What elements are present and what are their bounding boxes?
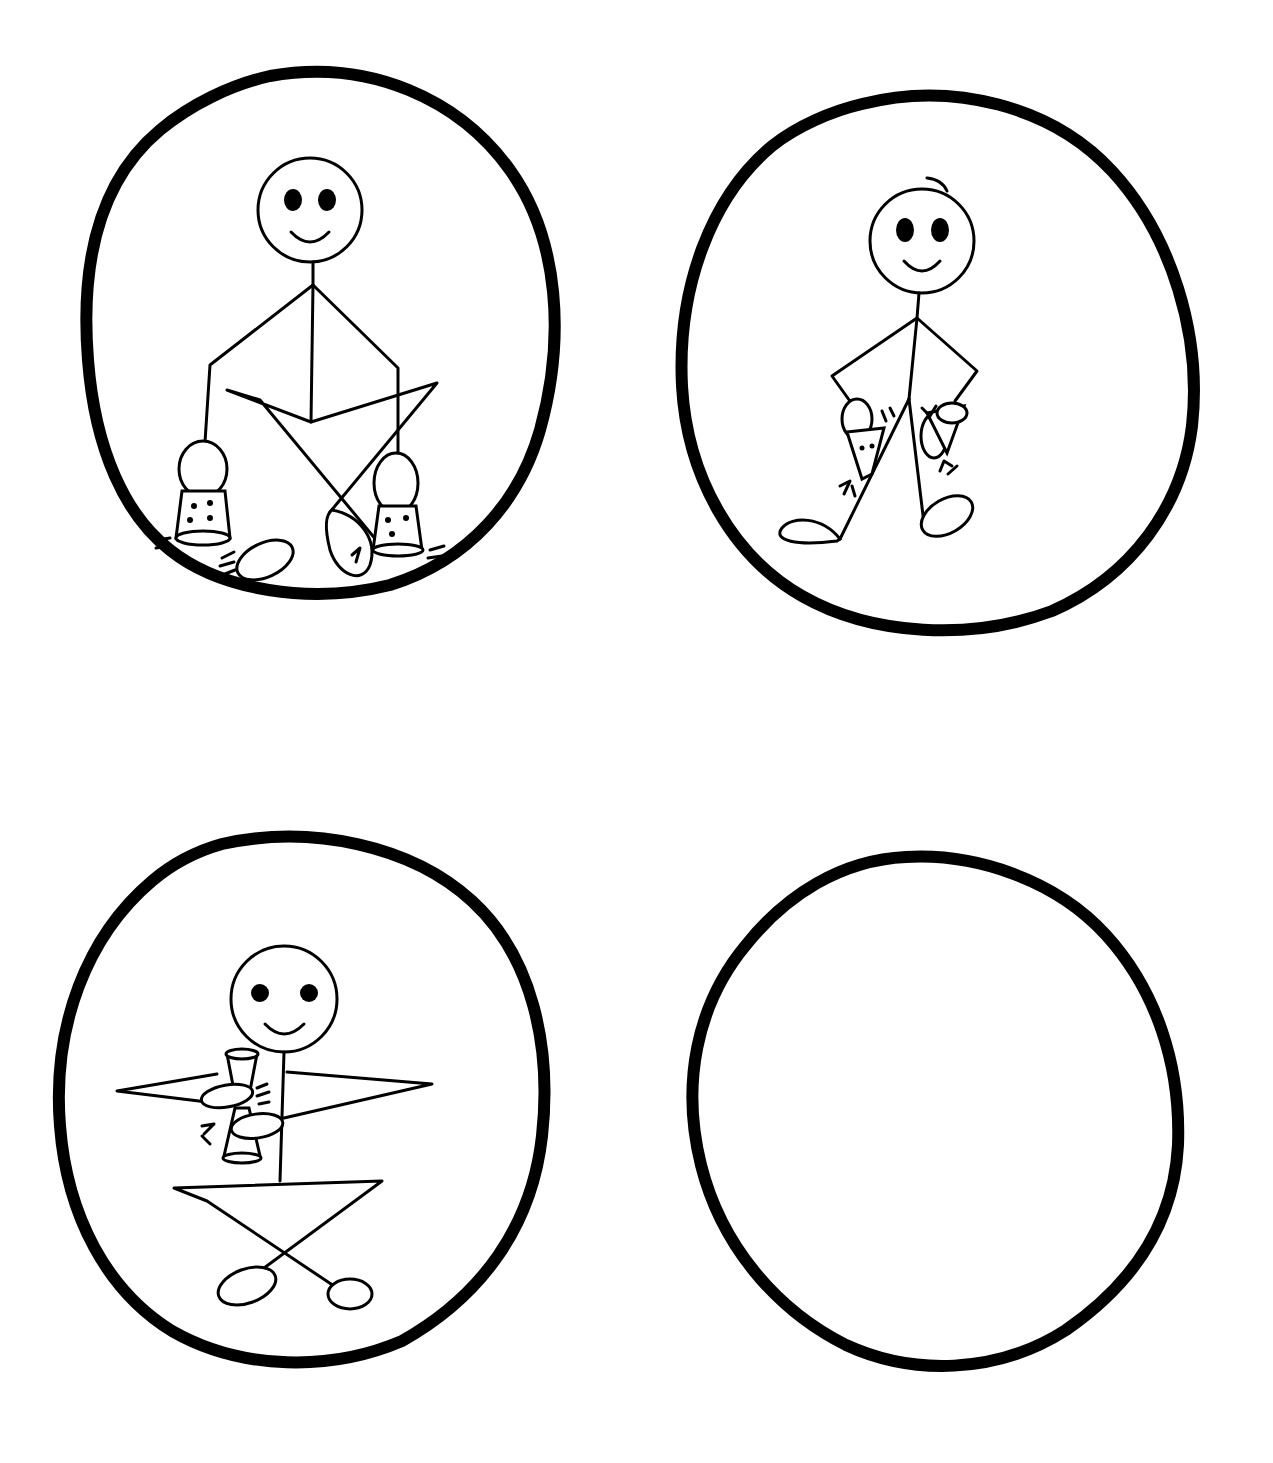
- arm-right: [284, 1072, 432, 1118]
- stick-figure: [117, 946, 432, 1312]
- circle-frame: [692, 857, 1178, 1366]
- arm-left: [832, 318, 917, 411]
- stick-figure: [780, 178, 980, 545]
- eye-right-icon: [318, 189, 336, 211]
- circle-frame: [86, 72, 554, 594]
- foot-left-icon: [213, 1260, 281, 1312]
- panel-1-seated-shakers: Smiling stick figure sitting cross-legge…: [70, 60, 580, 620]
- eye-right-icon: [931, 218, 949, 242]
- shaker-center-rim: [226, 1049, 258, 1059]
- shaker-center-base: [223, 1153, 261, 1163]
- smile-icon: [265, 1024, 304, 1034]
- shaker-left-icon: [847, 428, 884, 479]
- shaker-right-cap: [937, 403, 967, 423]
- panel-3-drawing: [52, 826, 577, 1381]
- shaker-right-base: [373, 544, 423, 556]
- body: [909, 293, 919, 399]
- legs-crossed: [174, 1181, 382, 1288]
- circle-frame: [59, 837, 545, 1363]
- arm-left: [205, 285, 313, 442]
- shaker-left-base: [176, 531, 230, 545]
- hand-right-icon: [374, 453, 418, 513]
- panel-2-drawing: [672, 86, 1217, 646]
- head-icon: [231, 946, 337, 1052]
- foot-right-icon: [326, 510, 371, 576]
- head-icon: [870, 189, 974, 293]
- eye-right-icon: [300, 984, 318, 1002]
- smile-icon: [291, 232, 329, 242]
- arm-right: [313, 285, 398, 458]
- panel-4-empty: Empty circle: [676, 845, 1196, 1380]
- panel-4-drawing: [676, 845, 1196, 1380]
- panel-1-drawing: [70, 60, 580, 620]
- foot-left-icon: [780, 520, 840, 543]
- foot-right-icon: [914, 487, 979, 544]
- arm-right: [917, 318, 977, 401]
- eye-left-icon: [251, 984, 269, 1002]
- foot-right-icon: [328, 1279, 372, 1309]
- eye-left-icon: [284, 189, 302, 211]
- eye-left-icon: [896, 218, 914, 242]
- hand-left-icon: [179, 441, 227, 497]
- stick-figure: [156, 158, 444, 588]
- circle-frame: [682, 96, 1194, 631]
- panel-3-seated-center-shaker: Smiling stick figure sitting cross-legge…: [52, 826, 577, 1381]
- leg-right: [909, 399, 925, 532]
- head-icon: [258, 158, 362, 262]
- smile-icon: [904, 261, 940, 271]
- panel-2-standing-shakers: Smiling stick figure standing, hands on …: [672, 86, 1217, 646]
